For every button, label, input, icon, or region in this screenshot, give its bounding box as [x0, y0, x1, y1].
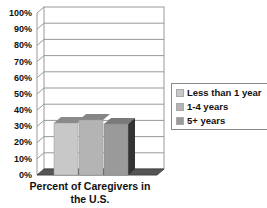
y-tick-10: 10%: [0, 154, 32, 164]
y-tick-70: 70%: [0, 57, 32, 67]
y-tick-0: 0%: [0, 170, 32, 180]
legend-label: Less than 1 year: [187, 87, 261, 98]
legend-label: 5+ years: [187, 115, 225, 126]
legend-label: 1-4 years: [187, 101, 228, 112]
x-label-line-1: Percent of Caregivers in: [20, 180, 160, 193]
legend-swatch-icon: [176, 89, 184, 97]
legend-item-5-plus-years: 5+ years: [176, 115, 225, 126]
legend-swatch-icon: [176, 103, 184, 111]
y-tick-60: 60%: [0, 73, 32, 83]
x-axis-label: Percent of Caregivers in the U.S.: [20, 180, 160, 206]
y-tick-100: 100%: [0, 8, 32, 18]
y-tick-30: 30%: [0, 121, 32, 131]
y-tick-20: 20%: [0, 137, 32, 147]
y-tick-80: 80%: [0, 40, 32, 50]
legend-item-less-than-1-year: Less than 1 year: [176, 87, 261, 98]
x-label-line-2: the U.S.: [20, 193, 160, 206]
legend: Less than 1 year 1-4 years 5+ years: [171, 83, 267, 130]
y-tick-40: 40%: [0, 105, 32, 115]
bar-5-plus-years: [104, 118, 135, 175]
y-tick-90: 90%: [0, 24, 32, 34]
legend-item-1-4-years: 1-4 years: [176, 101, 228, 112]
legend-swatch-icon: [176, 117, 184, 125]
y-tick-50: 50%: [0, 89, 32, 99]
